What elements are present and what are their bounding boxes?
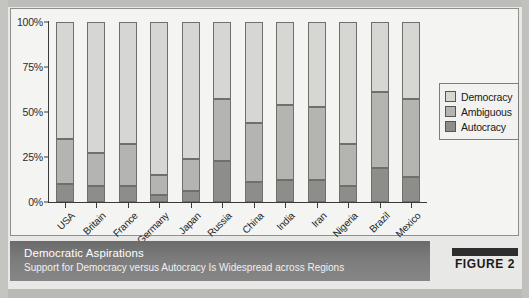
bar-segment-ambiguous[interactable] xyxy=(213,99,231,160)
y-axis-tick-label: 0% xyxy=(28,196,43,208)
x-axis-tick-mark xyxy=(380,203,381,208)
bar-segment-autocracy[interactable] xyxy=(402,177,420,202)
bar-segment-democracy[interactable] xyxy=(56,22,74,139)
x-axis-tick-mark xyxy=(254,203,255,208)
legend-swatch-icon xyxy=(445,121,456,132)
bar-segment-autocracy[interactable] xyxy=(87,186,105,202)
y-axis-tick-mark xyxy=(44,157,49,158)
legend-item-label: Ambiguous xyxy=(461,106,512,118)
bar-stack[interactable] xyxy=(56,22,74,202)
x-axis-category-label: China xyxy=(240,210,266,236)
y-axis-tick-label: 100% xyxy=(17,16,43,28)
legend-item[interactable]: Autocracy xyxy=(445,119,512,134)
bar-segment-democracy[interactable] xyxy=(119,22,137,144)
bar-segment-democracy[interactable] xyxy=(402,22,420,99)
bar-segment-autocracy[interactable] xyxy=(276,180,294,202)
bar-segment-democracy[interactable] xyxy=(87,22,105,153)
y-axis-tick-mark xyxy=(44,67,49,68)
legend-swatch-icon xyxy=(445,106,456,117)
bar-segment-ambiguous[interactable] xyxy=(245,123,263,182)
page-edge-top xyxy=(0,0,529,7)
x-axis-category-label: France xyxy=(111,210,140,239)
bar-segment-ambiguous[interactable] xyxy=(402,99,420,176)
bar-segment-democracy[interactable] xyxy=(150,22,168,175)
x-axis-tick-mark xyxy=(222,203,223,208)
bar-segment-ambiguous[interactable] xyxy=(308,107,326,181)
bar-segment-democracy[interactable] xyxy=(213,22,231,99)
bar-segment-autocracy[interactable] xyxy=(339,186,357,202)
figure-root: 0%25%50%75%100% DemocracyAmbiguousAutocr… xyxy=(0,0,529,298)
x-axis-category-label: Japan xyxy=(176,210,202,236)
bar-stack[interactable] xyxy=(402,22,420,202)
page-edge-right xyxy=(522,0,529,298)
x-axis-tick-mark xyxy=(411,203,412,208)
figure-badge: FIGURE 2 xyxy=(452,248,518,271)
bar-stack[interactable] xyxy=(119,22,137,202)
bar-segment-autocracy[interactable] xyxy=(308,180,326,202)
bar-segment-ambiguous[interactable] xyxy=(56,139,74,184)
figure-badge-rule xyxy=(452,248,518,256)
bar-segment-democracy[interactable] xyxy=(308,22,326,107)
page-edge-left xyxy=(0,0,8,298)
y-axis-tick-mark xyxy=(44,22,49,23)
bar-stack[interactable] xyxy=(371,22,389,202)
bar-segment-democracy[interactable] xyxy=(245,22,263,123)
y-axis-tick-label: 75% xyxy=(23,61,43,73)
x-axis-category-label: Nigeria xyxy=(331,210,360,239)
bar-segment-autocracy[interactable] xyxy=(182,191,200,202)
bar-segment-autocracy[interactable] xyxy=(371,168,389,202)
bar-segment-ambiguous[interactable] xyxy=(87,153,105,185)
y-axis-tick-mark xyxy=(44,202,49,203)
bar-stack[interactable] xyxy=(339,22,357,202)
legend-item-label: Democracy xyxy=(461,91,512,103)
x-axis-tick-mark xyxy=(285,203,286,208)
y-axis-labels: 0%25%50%75%100% xyxy=(11,9,43,237)
bar-segment-autocracy[interactable] xyxy=(56,184,74,202)
y-axis-tick-mark xyxy=(44,112,49,113)
bar-segment-ambiguous[interactable] xyxy=(182,159,200,191)
legend-item[interactable]: Democracy xyxy=(445,89,512,104)
bar-segment-autocracy[interactable] xyxy=(119,186,137,202)
chart-legend: DemocracyAmbiguousAutocracy xyxy=(439,83,519,140)
bar-stack[interactable] xyxy=(182,22,200,202)
bar-stack[interactable] xyxy=(150,22,168,202)
bar-segment-ambiguous[interactable] xyxy=(150,175,168,195)
bar-segment-democracy[interactable] xyxy=(182,22,200,159)
bar-segment-autocracy[interactable] xyxy=(150,195,168,202)
x-axis-category-label: India xyxy=(275,210,297,232)
x-axis-category-label: Brazil xyxy=(367,210,392,235)
x-axis-tick-mark xyxy=(348,203,349,208)
x-axis-tick-mark xyxy=(191,203,192,208)
bar-stack[interactable] xyxy=(245,22,263,202)
x-axis-category-label: Mexico xyxy=(394,210,423,239)
bar-stack[interactable] xyxy=(87,22,105,202)
legend-swatch-icon xyxy=(445,91,456,102)
bar-stack[interactable] xyxy=(308,22,326,202)
x-axis-tick-mark xyxy=(317,203,318,208)
bar-segment-ambiguous[interactable] xyxy=(276,105,294,181)
bar-segment-autocracy[interactable] xyxy=(245,182,263,202)
legend-item-label: Autocracy xyxy=(461,121,506,133)
bar-segment-ambiguous[interactable] xyxy=(371,92,389,168)
page-edge-bottom xyxy=(0,289,529,298)
bar-segment-democracy[interactable] xyxy=(371,22,389,92)
x-axis-category-label: Iran xyxy=(309,210,328,229)
x-axis-tick-mark xyxy=(96,203,97,208)
bar-stack[interactable] xyxy=(213,22,231,202)
figure-badge-label: FIGURE 2 xyxy=(452,257,518,271)
x-axis-category-label: USA xyxy=(55,210,77,232)
bar-segment-autocracy[interactable] xyxy=(213,161,231,202)
bar-segment-ambiguous[interactable] xyxy=(339,144,357,185)
x-axis-tick-mark xyxy=(159,203,160,208)
bar-segment-ambiguous[interactable] xyxy=(119,144,137,185)
bar-segment-democracy[interactable] xyxy=(276,22,294,105)
plot-area xyxy=(49,22,427,202)
x-axis-category-label: Britain xyxy=(81,210,108,237)
legend-item[interactable]: Ambiguous xyxy=(445,104,512,119)
bar-segment-democracy[interactable] xyxy=(339,22,357,144)
x-axis-category-label: Russia xyxy=(205,210,234,239)
caption-title: Democratic Aspirations xyxy=(24,246,430,261)
bar-stack[interactable] xyxy=(276,22,294,202)
chart-panel: 0%25%50%75%100% DemocracyAmbiguousAutocr… xyxy=(10,8,519,236)
y-axis-tick-label: 50% xyxy=(23,106,43,118)
